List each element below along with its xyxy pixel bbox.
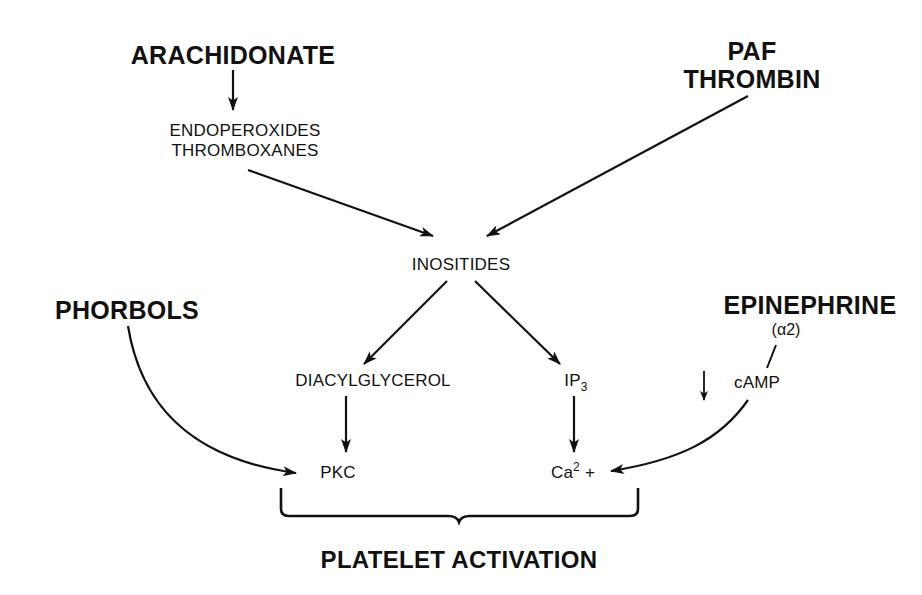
node-paf: PAF: [683, 37, 820, 65]
node-diacylglycerol: DIACYLGLYCEROL: [295, 372, 451, 389]
arrow-thrombin-to-inositides: [487, 96, 748, 236]
node-endoperoxides-thromboxanes: ENDOPEROXIDES THROMBOXANES: [170, 121, 321, 160]
ip3-subscript: 3: [581, 380, 588, 394]
node-inositides: INOSITIDES: [412, 256, 510, 273]
node-pkc: PKC: [320, 464, 356, 481]
platelet-activation-brace: [281, 488, 638, 522]
node-phorbols: PHORBOLS: [55, 298, 199, 323]
node-calcium: Ca2 +: [551, 464, 595, 481]
node-camp: cAMP: [734, 374, 780, 391]
arrow-inositides-to-diacylglycerol: [364, 281, 447, 364]
node-endoperoxides: ENDOPEROXIDES: [170, 121, 321, 141]
arrow-thromboxanes-to-inositides: [248, 170, 433, 236]
node-thromboxanes: THROMBOXANES: [170, 141, 321, 161]
arrow-inositides-to-ip3: [475, 281, 560, 364]
node-platelet-activation: PLATELET ACTIVATION: [321, 548, 598, 572]
node-paf-thrombin: PAF THROMBIN: [683, 37, 820, 93]
platelet-activation-diagram: ARACHIDONATE ENDOPEROXIDES THROMBOXANES …: [0, 0, 922, 595]
calcium-base: Ca: [551, 463, 573, 482]
node-ip3: IP3: [564, 372, 587, 389]
calcium-plus: +: [580, 463, 595, 482]
ip3-base: IP: [564, 371, 580, 390]
node-alpha2-receptor: (α2): [772, 322, 801, 338]
node-arachidonate: ARACHIDONATE: [131, 43, 336, 68]
arrow-phorbols-to-pkc: [128, 326, 296, 473]
connector-alpha2-to-camp: [767, 345, 776, 368]
node-epinephrine: EPINEPHRINE: [724, 293, 897, 318]
node-thrombin: THROMBIN: [683, 65, 820, 93]
arrow-camp-to-calcium: [611, 400, 748, 471]
calcium-charge: 2: [573, 460, 580, 474]
